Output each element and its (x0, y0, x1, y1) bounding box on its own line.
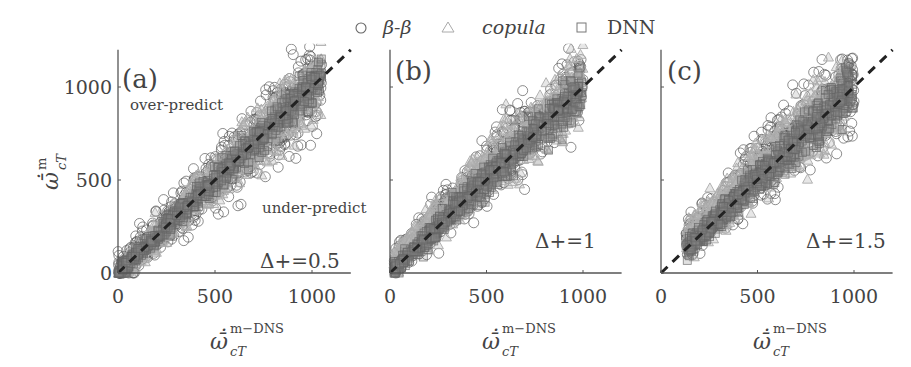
triangle-point (578, 40, 588, 49)
legend-label-beta: β-β (382, 16, 411, 38)
square-point (473, 202, 481, 210)
square-point (427, 225, 435, 233)
x-tick-label: 1000 (288, 285, 336, 307)
under-predict-label: under-predict (262, 199, 367, 217)
square-point (456, 207, 464, 215)
square-point (806, 133, 814, 141)
circle-point (183, 232, 193, 242)
square-point (547, 134, 555, 142)
circle-point (306, 140, 316, 150)
scatter-points (113, 24, 326, 278)
triangle-point (705, 183, 715, 192)
square-point (218, 177, 226, 185)
square-point (750, 188, 758, 196)
square-point (837, 77, 845, 85)
circle-point (288, 50, 298, 60)
square-point (477, 193, 485, 201)
circle-point (805, 165, 815, 175)
square-point (558, 135, 566, 143)
x-axis-label-sub: cT (230, 344, 247, 359)
square-point (300, 97, 308, 105)
x-axis-label-sup: m−DNS (502, 321, 556, 336)
x-tick-label: 500 (739, 285, 775, 307)
x-axis-label-main: ω̄̇ (482, 328, 500, 354)
square-point (511, 141, 519, 149)
square-point (698, 226, 706, 234)
circle-point (233, 201, 243, 211)
square-point (799, 117, 807, 125)
square-point (575, 102, 583, 110)
square-point (784, 136, 792, 144)
square-point (720, 202, 728, 210)
triangle-point (501, 99, 511, 108)
triangle-point (803, 174, 813, 183)
square-point (269, 130, 277, 138)
triangle-point (823, 52, 833, 61)
panel-a: 0500100005001000(a)Δ+=0.5over-predictund… (64, 24, 367, 359)
triangle-point (541, 78, 551, 87)
x-axis-label-sub: cT (502, 344, 519, 359)
square-point (448, 189, 456, 197)
delta-annotation: Δ+=1 (535, 229, 596, 253)
x-tick-label: 500 (468, 285, 504, 307)
square-point (844, 60, 852, 68)
square-point (497, 158, 505, 166)
square-point (545, 146, 553, 154)
y-tick-label: 500 (76, 169, 112, 191)
square-point (175, 202, 183, 210)
circle-point (179, 236, 189, 246)
y-axis-label-main: ω̄̇ (37, 172, 63, 190)
y-tick-label: 1000 (64, 76, 112, 98)
triangle-marker-icon (442, 22, 454, 32)
circle-point (301, 24, 311, 34)
x-axis-label-sup: m−DNS (230, 321, 284, 336)
square-point (772, 142, 780, 150)
circle-marker-icon (356, 23, 366, 33)
square-point (771, 178, 779, 186)
circle-point (286, 44, 296, 54)
square-point (802, 147, 810, 155)
square-point (824, 91, 832, 99)
square-point (268, 115, 276, 123)
triangle-point (746, 208, 756, 217)
square-point (791, 128, 799, 136)
triangle-point (566, 43, 576, 52)
circle-point (291, 153, 301, 163)
square-point (431, 234, 439, 242)
circle-point (513, 99, 523, 109)
panel-label: (b) (395, 56, 432, 86)
square-point (490, 174, 498, 182)
panel-label: (a) (122, 64, 158, 94)
legend-label-dnn: DNN (607, 16, 655, 38)
square-point (545, 104, 553, 112)
x-tick-label: 1000 (559, 285, 607, 307)
x-axis-label-main: ω̄̇ (753, 328, 771, 354)
y-axis-label-sup: m (34, 158, 49, 170)
square-point (717, 221, 725, 229)
square-point (224, 159, 232, 167)
square-point (237, 132, 245, 140)
square-point (283, 120, 291, 128)
square-point (195, 179, 203, 187)
circle-point (213, 209, 223, 219)
square-point (683, 256, 691, 264)
square-point (824, 125, 832, 133)
square-point (291, 111, 299, 119)
legend-label-copula: copula (482, 16, 546, 38)
x-tick-label: 500 (197, 285, 233, 307)
y-tick-label: 0 (100, 262, 112, 284)
square-point (478, 170, 486, 178)
circle-point (832, 149, 842, 159)
x-tick-label: 0 (384, 285, 396, 307)
square-point (485, 166, 493, 174)
circle-point (434, 248, 444, 258)
circle-point (469, 218, 479, 228)
square-point (304, 108, 312, 116)
square-point (561, 90, 569, 98)
square-point (833, 109, 841, 117)
square-point (230, 147, 238, 155)
x-axis-label-main: ω̄̇ (210, 328, 228, 354)
square-point (846, 98, 854, 106)
square-point (838, 126, 846, 134)
panel-b: 05001000(b)Δ+=1ω̄̇cTm−DNS (384, 40, 622, 359)
